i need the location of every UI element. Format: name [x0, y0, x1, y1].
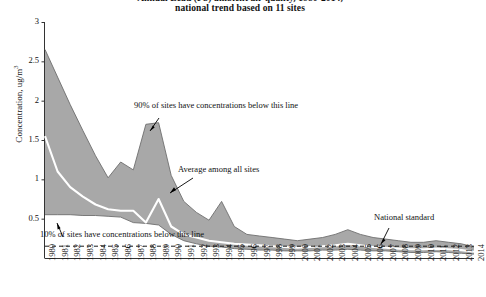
national-standard-annotation: National standard [374, 212, 434, 222]
x-tick-label: 2002 [326, 244, 335, 261]
x-tick-label: 2001 [313, 244, 322, 261]
x-tick-label: 2011 [439, 244, 448, 261]
x-tick-label: 1981 [61, 244, 70, 261]
x-tick-label: 2000 [301, 244, 310, 261]
x-tick-label: 2007 [389, 244, 398, 261]
x-tick-label: 1995 [237, 244, 246, 261]
x-tick-label: 2010 [427, 244, 436, 261]
x-tick-label: 2009 [414, 244, 423, 261]
x-tick-label: 1993 [212, 244, 221, 261]
x-tick-label: 2014 [477, 244, 486, 261]
x-tick-label: 2005 [364, 244, 373, 261]
x-tick-label: 1990 [174, 244, 183, 261]
x-tick-label: 1988 [149, 244, 158, 261]
x-tick-label: 1985 [111, 244, 120, 261]
x-tick-label: 1999 [288, 244, 297, 261]
x-tick-label: 1992 [200, 244, 209, 261]
x-tick-label: 2006 [376, 244, 385, 261]
x-tick-label: 2004 [351, 244, 360, 261]
x-tick-label: 1997 [263, 244, 272, 261]
x-tick-label: 2013 [465, 244, 474, 261]
x-tick-label: 1982 [73, 244, 82, 261]
x-tick-label: 1989 [162, 244, 171, 261]
x-tick-label: 2003 [338, 244, 347, 261]
p10-annotation: 10% of sites have concentrations below t… [40, 229, 204, 239]
x-tick-label: 1980 [48, 244, 57, 261]
x-tick-label: 1994 [225, 244, 234, 261]
x-tick-label: 1983 [86, 244, 95, 261]
x-tick-label: 2012 [452, 244, 461, 261]
x-tick-label: 1987 [137, 244, 146, 261]
x-tick-label: 1998 [275, 244, 284, 261]
x-tick-label: 1991 [187, 244, 196, 261]
x-tick-label: 1984 [99, 244, 108, 261]
x-tick-label: 1996 [250, 244, 259, 261]
p90-annotation: 90% of sites have concentrations below t… [134, 100, 298, 110]
average-annotation: Average among all sites [178, 164, 259, 174]
x-tick-label: 1986 [124, 244, 133, 261]
x-tick-label: 2008 [401, 244, 410, 261]
